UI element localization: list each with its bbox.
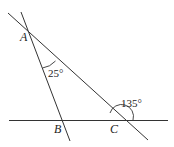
- geometry-diagram: A B C 25° 135°: [0, 0, 174, 147]
- point-label-a: A: [19, 30, 28, 44]
- point-label-b: B: [54, 122, 62, 136]
- point-label-c: C: [110, 122, 119, 136]
- angle-label-25: 25°: [48, 67, 63, 79]
- angle-label-135: 135°: [121, 97, 142, 109]
